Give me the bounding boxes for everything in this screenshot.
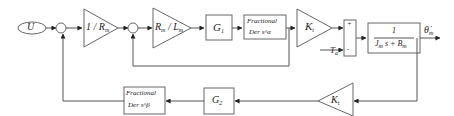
fractional-beta-line2: Der s^β bbox=[128, 102, 150, 109]
block-diagram-canvas bbox=[0, 0, 454, 116]
kt-forward-label: Kt bbox=[305, 21, 314, 33]
kt-feedback-label: Kt bbox=[331, 95, 339, 106]
fractional-alpha-line2: Der s^α bbox=[249, 29, 271, 36]
sum3-minus-sign: - bbox=[347, 46, 349, 53]
plant-denominator: Jm s + Bm bbox=[375, 40, 407, 49]
gain-kt-forward bbox=[297, 9, 332, 47]
output-theta-dot-label: θ̇m bbox=[424, 25, 433, 36]
gain-rm-lm-label: Rm / Lm bbox=[155, 22, 183, 33]
g1-label: G1 bbox=[213, 22, 224, 34]
g2-label: G2 bbox=[212, 95, 222, 106]
sum3-plus-sign: + bbox=[347, 21, 352, 28]
plant-numerator: 1 bbox=[392, 27, 396, 35]
sum-junction-2 bbox=[128, 23, 138, 33]
disturbance-ta-label: Ta bbox=[330, 46, 338, 56]
input-u-label: U bbox=[27, 22, 34, 32]
gain-inverse-rm-label: 1 / Rm bbox=[86, 22, 109, 33]
fractional-alpha-line1: Fractional bbox=[247, 18, 277, 25]
fractional-beta-line1: Fractional bbox=[126, 90, 156, 97]
sum-junction-1 bbox=[56, 23, 66, 33]
